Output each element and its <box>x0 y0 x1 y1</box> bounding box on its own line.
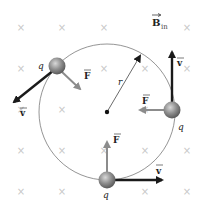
field-x-mark-icon: × <box>100 63 108 74</box>
charge-sphere <box>164 102 181 119</box>
field-x-mark-icon: × <box>183 186 191 197</box>
force-arrow <box>62 72 80 89</box>
field-x-mark-icon: × <box>17 145 25 156</box>
field-x-mark-icon: × <box>58 104 66 115</box>
field-x-mark-icon: × <box>17 186 25 197</box>
field-x-mark-icon: × <box>58 22 66 33</box>
velocity-label: v <box>19 108 26 118</box>
charge-q-label: q <box>178 122 184 132</box>
force-label: F <box>84 71 91 81</box>
radius-label: r <box>118 77 123 87</box>
field-x-mark-icon: × <box>100 22 108 33</box>
radius-line <box>107 56 140 112</box>
charge-sphere <box>99 172 116 189</box>
field-x-mark-icon: × <box>141 63 149 74</box>
field-x-mark-icon: × <box>183 63 191 74</box>
magnetic-circular-motion-diagram: ×××××××××××××××××××× r B in q F v <box>0 0 200 208</box>
center-point <box>105 110 109 114</box>
field-x-mark-icon: × <box>141 186 149 197</box>
field-x-mark-icon: × <box>183 22 191 33</box>
field-x-mark-icon: × <box>17 22 25 33</box>
velocity-label: v <box>176 58 183 68</box>
field-x-mark-icon: × <box>17 63 25 74</box>
charge-q-label: q <box>38 61 44 71</box>
velocity-arrow <box>14 70 54 102</box>
force-label: F <box>113 135 120 145</box>
field-x-mark-icon: × <box>58 145 66 156</box>
velocity-label: v <box>155 166 162 176</box>
field-label-main: B <box>152 17 160 28</box>
charge-sphere <box>49 58 66 75</box>
field-x-mark-icon: × <box>183 145 191 156</box>
charge-bottom: q F v <box>99 134 164 200</box>
charge-q-label: q <box>103 190 109 200</box>
magnetic-field-label: B in <box>152 14 168 32</box>
diagram-canvas: ×××××××××××××××××××× r B in q F v <box>0 0 200 208</box>
field-x-mark-icon: × <box>58 186 66 197</box>
force-label: F <box>142 96 149 106</box>
field-x-mark-icon: × <box>141 145 149 156</box>
charge-upper-left: q F v <box>14 58 91 119</box>
field-label-subscript: in <box>161 23 168 31</box>
